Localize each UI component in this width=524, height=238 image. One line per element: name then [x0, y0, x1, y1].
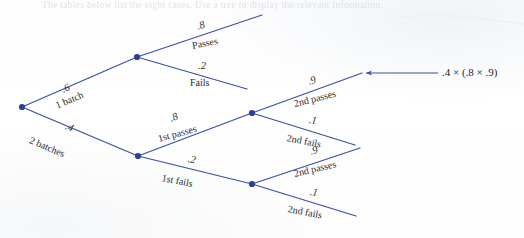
branch-label-probability-1-upper: .1	[308, 114, 317, 126]
node-two-batches	[135, 153, 141, 159]
branch-line-b5	[138, 113, 252, 156]
branch-label-probability-2-bottom: .2	[187, 153, 197, 165]
diagram-page: The tables below list the eight cases. U…	[0, 0, 524, 238]
node-one-batch	[134, 54, 140, 60]
branch-label-probability-2-top: .2	[198, 60, 206, 71]
node-first-pass	[249, 110, 255, 116]
branch-label-outcome-fails: Fails	[190, 77, 209, 88]
branch-label-probability-1-lower: .1	[309, 186, 318, 198]
node-first-fail	[249, 181, 255, 187]
node-root	[19, 104, 25, 110]
scan-artifact-curve	[398, 16, 524, 24]
annotation-formula: .4 × (.8 × .9)	[442, 66, 497, 78]
probability-tree-svg	[0, 0, 524, 238]
